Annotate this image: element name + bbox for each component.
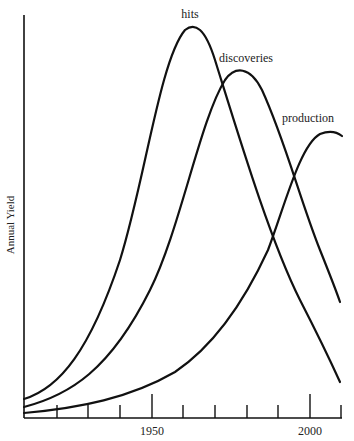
x-axis-ticks bbox=[57, 394, 341, 418]
hits-curve bbox=[24, 27, 340, 399]
hubbert-peak-chart: 1950 2000 Annual Yield hits discoveries … bbox=[0, 0, 354, 441]
x-tick-label-1950: 1950 bbox=[140, 424, 164, 438]
production-curve bbox=[24, 132, 342, 413]
hits-label: hits bbox=[181, 7, 199, 21]
production-label: production bbox=[282, 111, 334, 125]
discoveries-label: discoveries bbox=[219, 51, 273, 65]
y-axis-label: Annual Yield bbox=[4, 195, 16, 254]
x-tick-label-2000: 2000 bbox=[298, 424, 322, 438]
